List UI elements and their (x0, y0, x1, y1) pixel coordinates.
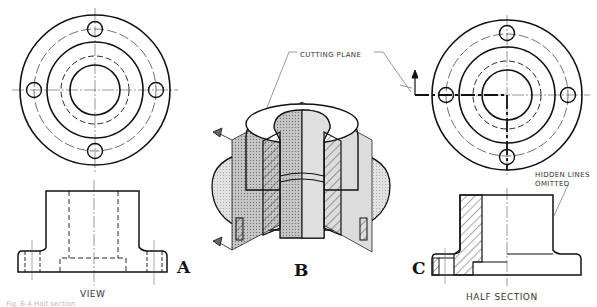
panel-b-letter: B (294, 260, 308, 280)
panel-c-caption: HALF SECTION (466, 292, 538, 302)
top-view-a (12, 8, 178, 172)
panel-c: HIDDEN LINES OMITTED C HALF SECTION (400, 15, 590, 302)
figure-canvas: A VIEW CUTTING PLANE (0, 0, 597, 307)
isometric-section (212, 102, 390, 252)
half-section-c (432, 185, 581, 286)
panel-a: A VIEW (12, 8, 191, 299)
panel-a-caption: VIEW (80, 289, 105, 299)
panel-b: CUTTING PLANE (212, 51, 411, 280)
top-view-c (400, 15, 590, 175)
hidden-lines-note-line1: HIDDEN LINES (535, 171, 590, 179)
figure-caption: Fig. 6-4 Half section (6, 300, 75, 307)
front-view-a (18, 180, 167, 285)
cutting-plane-label: CUTTING PLANE (300, 51, 361, 59)
panel-a-letter: A (176, 257, 191, 277)
hidden-lines-note-line2: OMITTED (535, 180, 570, 188)
panel-c-letter: C (412, 258, 426, 278)
